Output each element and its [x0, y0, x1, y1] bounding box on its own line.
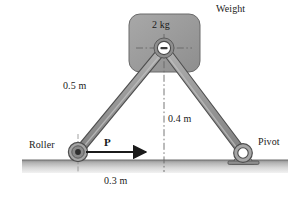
roller-label: Roller: [29, 139, 55, 150]
mass-label: 2 kg: [152, 19, 170, 30]
physics-diagram-figure: Weight 2 kg 0.5 m 0.4 m 0.3 m Roller Piv…: [0, 0, 305, 199]
pivot-label: Pivot: [258, 136, 280, 147]
right-member: [163, 48, 243, 154]
weight-label: Weight: [216, 3, 245, 14]
left-member: [78, 48, 165, 152]
dimension-left-member-length: 0.5 m: [63, 80, 86, 91]
dimension-apex-height: 0.4 m: [168, 113, 191, 124]
apex-pin-joint: [154, 38, 174, 58]
dimension-roller-offset: 0.3 m: [104, 175, 127, 186]
roller-support: [68, 142, 87, 161]
force-label: P: [104, 136, 111, 148]
